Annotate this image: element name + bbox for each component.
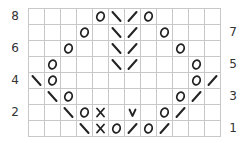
yarn-over-icon [61, 89, 76, 104]
chart-cell [173, 89, 189, 105]
left-leaning-decrease-icon [109, 57, 124, 72]
chart-cell [77, 105, 93, 121]
chart-cell [77, 73, 93, 89]
chart-cell [125, 121, 141, 137]
chart-cell [77, 25, 93, 41]
yarn-over-icon [45, 57, 60, 72]
chart-cell [61, 73, 77, 89]
chart-cell [189, 89, 205, 105]
chart-cell [157, 105, 173, 121]
chart-cell [205, 89, 221, 105]
yarn-over-icon [45, 73, 60, 88]
chart-cell [157, 25, 173, 41]
chart-cell [29, 41, 45, 57]
slip-stitch-icon [125, 105, 140, 120]
chart-cell [93, 105, 109, 121]
yarn-over-icon [157, 105, 172, 120]
row-label-4: 4 [8, 72, 22, 88]
chart-cell [141, 25, 157, 41]
row-label-1: 1 [226, 120, 240, 136]
yarn-over-icon [109, 121, 124, 136]
left-leaning-decrease-icon [45, 89, 60, 104]
chart-cell [189, 73, 205, 89]
chart-cell [173, 105, 189, 121]
chart-cell [125, 25, 141, 41]
chart-cell [173, 57, 189, 73]
chart-cell [141, 89, 157, 105]
left-leaning-decrease-icon [109, 9, 124, 24]
chart-cell [61, 121, 77, 137]
right-leaning-decrease-icon [125, 41, 140, 56]
chart-cell [45, 57, 61, 73]
chart-cell [45, 9, 61, 25]
chart-cell [61, 41, 77, 57]
left-leaning-decrease-icon [77, 121, 92, 136]
chart-cell [29, 89, 45, 105]
yarn-over-icon [93, 9, 108, 24]
chart-cell [189, 9, 205, 25]
chart-cell [45, 105, 61, 121]
left-leaning-decrease-icon [109, 25, 124, 40]
knitting-chart: 8 6 4 2 7 5 3 1 [0, 0, 248, 143]
row-label-7: 7 [226, 24, 240, 40]
chart-cell [93, 25, 109, 41]
chart-cell [29, 73, 45, 89]
chart-cell [205, 9, 221, 25]
chart-cell [125, 41, 141, 57]
chart-cell [189, 25, 205, 41]
chart-cell [93, 57, 109, 73]
row-label-5: 5 [226, 56, 240, 72]
yarn-over-icon [173, 41, 188, 56]
chart-cell [45, 89, 61, 105]
chart-cell [29, 105, 45, 121]
chart-cell [141, 105, 157, 121]
chart-cell [125, 89, 141, 105]
chart-cell [93, 73, 109, 89]
chart-cell [141, 9, 157, 25]
yarn-over-icon [173, 89, 188, 104]
yarn-over-icon [141, 121, 156, 136]
chart-cell [77, 9, 93, 25]
row-label-2: 2 [8, 104, 22, 120]
yarn-over-icon [77, 105, 92, 120]
chart-cell [173, 41, 189, 57]
right-leaning-decrease-icon [125, 9, 140, 24]
left-leaning-decrease-icon [29, 73, 44, 88]
chart-cell [29, 57, 45, 73]
chart-cell [205, 73, 221, 89]
chart-cell [61, 9, 77, 25]
chart-cell [61, 89, 77, 105]
chart-cell [45, 73, 61, 89]
chart-cell [29, 25, 45, 41]
chart-cell [157, 89, 173, 105]
chart-cell [157, 41, 173, 57]
chart-cell [29, 121, 45, 137]
chart-cell [157, 73, 173, 89]
chart-cell [157, 9, 173, 25]
chart-cell [173, 25, 189, 41]
yarn-over-icon [77, 25, 92, 40]
right-leaning-decrease-icon [125, 121, 140, 136]
chart-cell [125, 9, 141, 25]
chart-cell [61, 57, 77, 73]
chart-cell [125, 57, 141, 73]
chart-cell [109, 89, 125, 105]
chart-cell [109, 9, 125, 25]
chart-cell [93, 9, 109, 25]
left-leaning-decrease-icon [61, 105, 76, 120]
chart-cell [125, 105, 141, 121]
chart-cell [77, 41, 93, 57]
yarn-over-icon [61, 41, 76, 56]
chart-cell [157, 121, 173, 137]
chart-cell [205, 25, 221, 41]
right-leaning-decrease-icon [173, 105, 188, 120]
right-leaning-decrease-icon [157, 121, 172, 136]
cross-stitch-icon [93, 121, 108, 136]
right-leaning-decrease-icon [125, 57, 140, 72]
chart-cell [205, 57, 221, 73]
chart-cell [77, 121, 93, 137]
chart-cell [173, 121, 189, 137]
chart-cell [109, 25, 125, 41]
chart-cell [205, 121, 221, 137]
chart-cell [93, 121, 109, 137]
